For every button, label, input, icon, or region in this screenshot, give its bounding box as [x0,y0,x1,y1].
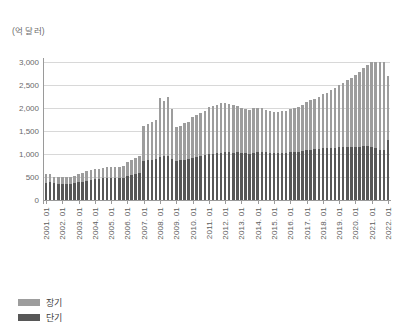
bar-segment-short-term [53,183,56,200]
bar-segment-short-term [366,146,369,200]
x-axis-tick-mark [209,201,210,204]
bar-segment-short-term [191,158,194,200]
bar-segment-long-term [138,156,141,173]
bar-segment-short-term [65,184,68,200]
bar-segment-short-term [228,152,231,200]
bar-segment-short-term [57,184,60,200]
x-axis-tick-mark [323,201,324,204]
bar [228,62,231,200]
bar-segment-long-term [277,112,280,153]
bar [98,62,101,200]
bar-segment-long-term [301,105,304,151]
y-axis-tick-label: 500 [3,173,39,182]
bar-segment-long-term [285,111,288,153]
x-axis-tick-mark [258,201,259,204]
x-axis-tick-mark [307,201,308,204]
x-axis-tick-label: 2012. 01 [221,207,230,240]
bar [102,62,105,200]
bar [342,62,345,200]
bar-segment-long-term [142,126,145,161]
bar-segment-long-term [354,75,357,146]
bar-segment-short-term [374,148,377,200]
bar [77,62,80,200]
x-axis-tick-label: 2022. 01 [384,207,393,240]
bar-segment-short-term [358,147,361,200]
bar-segment-long-term [49,174,52,182]
x-axis-tick-label: 2014. 01 [254,207,263,240]
bar-segment-short-term [130,175,133,200]
bar-segment-short-term [265,152,268,200]
bar [326,62,329,200]
bar-segment-long-term [73,176,76,183]
bar [313,62,316,200]
bar [53,62,56,200]
bar [45,62,48,200]
bar-segment-long-term [81,173,84,182]
bar-segment-long-term [65,177,68,184]
bar-segment-short-term [261,152,264,200]
bar-segment-short-term [175,161,178,200]
bar-segment-long-term [130,160,133,175]
bar-segment-short-term [199,156,202,200]
bar-segment-short-term [289,152,292,200]
bar-segment-long-term [126,162,129,176]
x-axis-tick-label: 2015. 01 [270,207,279,240]
bar-segment-long-term [85,171,88,181]
bar [90,62,93,200]
bar-segment-short-term [134,174,137,200]
bar-segment-long-term [102,168,105,179]
bar [195,62,198,200]
bar [130,62,133,200]
bar-segment-long-term [346,80,349,147]
legend-item: 장기 [18,296,62,309]
bar-segment-long-term [90,170,93,180]
bar [297,62,300,200]
bar-segment-short-term [277,153,280,200]
bar [322,62,325,200]
x-axis-tick-label: 2003. 01 [75,207,84,240]
bar-segment-long-term [334,88,337,148]
bar-segment-short-term [171,159,174,200]
bar [305,62,308,200]
bar [61,62,64,200]
x-axis-tick-label: 2016. 01 [286,207,295,240]
bar-segment-long-term [293,108,296,152]
bar-segment-short-term [224,152,227,200]
bar-segment-short-term [155,159,158,200]
bar [208,62,211,200]
bar [191,62,194,200]
bar-segment-long-term [179,126,182,161]
bar-segment-long-term [256,108,259,152]
bar-segment-long-term [147,124,150,160]
x-axis-tick-mark [388,201,389,204]
x-axis-tick-mark [193,201,194,204]
bar-segment-long-term [151,122,154,159]
bar-segment-long-term [98,169,101,179]
bar-segment-short-term [142,161,145,200]
legend-swatch [18,299,40,306]
x-axis-tick-mark [372,201,373,204]
bar-segment-long-term [106,167,109,178]
bar [155,62,158,200]
bar [350,62,353,200]
bar-segment-long-term [208,107,211,154]
bar [199,62,202,200]
bar-segment-long-term [305,102,308,150]
bar-segment-short-term [301,151,304,200]
bar-segment-short-term [159,157,162,200]
x-axis-tick-label: 2019. 01 [335,207,344,240]
bar-segment-short-term [45,183,48,200]
bar-segment-short-term [114,178,117,200]
bar [106,62,109,200]
bar [273,62,276,200]
bar-segment-short-term [285,153,288,200]
bar-segment-short-term [179,160,182,200]
bar [346,62,349,200]
bar-segment-long-term [269,111,272,152]
bar-segment-long-term [273,112,276,153]
bar-segment-long-term [281,111,284,153]
bar-segment-short-term [281,153,284,200]
bar-segment-long-term [175,127,178,161]
bar-segment-long-term [171,109,174,159]
bar-segment-short-term [98,179,101,200]
